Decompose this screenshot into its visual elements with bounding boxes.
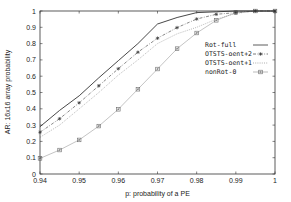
x-tick-label: 0.99 xyxy=(229,177,243,184)
series-otsts-oent-1 xyxy=(40,11,275,137)
y-tick-label: 0.3 xyxy=(26,122,36,129)
legend-label: OTSTS-oent+1 xyxy=(205,59,252,67)
y-axis-label: AR: 16x16 array probability xyxy=(4,49,12,134)
legend-item: nonRot-0 xyxy=(205,68,268,76)
series-nonrot-0 xyxy=(38,9,277,160)
y-tick-label: 0.7 xyxy=(26,56,36,63)
y-tick-label: 0.4 xyxy=(26,105,36,112)
series-otsts-oent-2 xyxy=(38,9,277,134)
legend-label: OTSTS-oent+2 xyxy=(205,50,252,58)
plot-frame xyxy=(40,11,275,174)
line-chart: 00.10.20.30.40.50.60.70.80.91 0.940.950.… xyxy=(0,0,291,202)
y-tick-label: 0.9 xyxy=(26,24,36,31)
x-tick-label: 0.98 xyxy=(190,177,204,184)
x-tick-label: 1 xyxy=(273,177,277,184)
y-tick-label: 0.2 xyxy=(26,138,36,145)
x-tick-label: 0.94 xyxy=(33,177,47,184)
y-tick-label: 0.6 xyxy=(26,73,36,80)
legend-label: Rot-full xyxy=(205,41,236,49)
x-tick-label: 0.96 xyxy=(112,177,126,184)
x-tick-label: 0.95 xyxy=(72,177,86,184)
y-tick-label: 0.5 xyxy=(26,89,36,96)
x-tick-label: 0.97 xyxy=(151,177,165,184)
y-tick-label: 1 xyxy=(32,8,36,15)
legend-item: Rot-full xyxy=(205,41,268,49)
legend-label: nonRot-0 xyxy=(205,68,236,76)
x-axis-label: p: probability of a PE xyxy=(125,190,190,198)
plot-series xyxy=(38,9,277,160)
legend-item: OTSTS-oent+2 xyxy=(205,50,268,58)
y-tick-label: 0.1 xyxy=(26,154,36,161)
x-axis-ticks: 0.940.950.960.970.980.991 xyxy=(33,11,277,184)
y-axis-ticks: 00.10.20.30.40.50.60.70.80.91 xyxy=(26,8,275,178)
legend: Rot-fullOTSTS-oent+2OTSTS-oent+1nonRot-0 xyxy=(205,41,268,76)
y-tick-label: 0.8 xyxy=(26,40,36,47)
legend-item: OTSTS-oent+1 xyxy=(205,59,268,67)
